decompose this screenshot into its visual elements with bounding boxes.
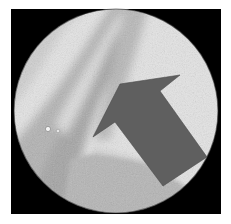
cell-circle [45, 126, 50, 131]
micrograph-figure: Circular microscopy field of view of a h… [0, 0, 231, 224]
cell-circle [56, 129, 60, 133]
microscope-field [0, 0, 231, 224]
